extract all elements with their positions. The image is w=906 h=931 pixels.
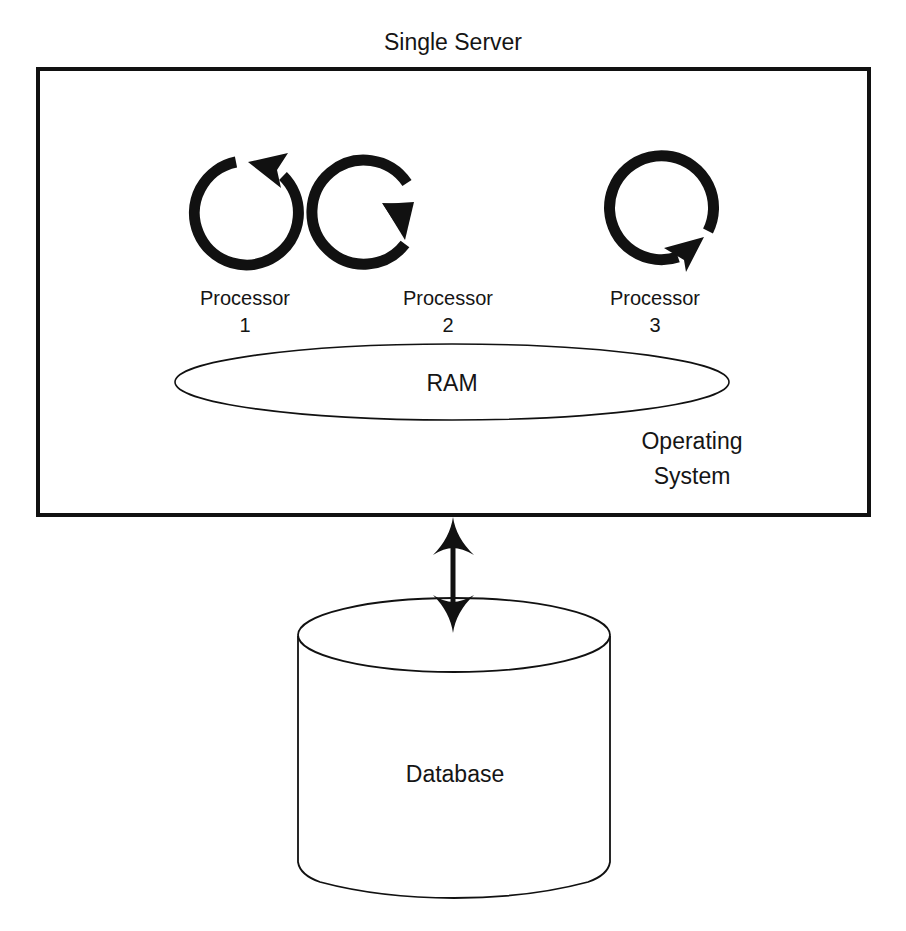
processor-1-number: 1	[239, 314, 250, 336]
cylinder-database-icon	[298, 598, 610, 898]
processor-2-label: Processor	[403, 287, 493, 309]
ram-label: RAM	[426, 370, 477, 396]
operating-system-label-line1: Operating	[641, 428, 742, 454]
processor-3-number: 3	[649, 314, 660, 336]
server-architecture-diagram: Single Server Processor 1 Processor 2 Pr…	[0, 0, 906, 931]
double-arrow-icon	[433, 517, 474, 633]
cycle-arrow-icon	[312, 160, 414, 264]
operating-system-label-line2: System	[654, 463, 731, 489]
diagram-title: Single Server	[384, 29, 522, 55]
cycle-arrow-icon	[610, 156, 714, 272]
processor-2-number: 2	[442, 314, 453, 336]
cycle-arrow-icon	[194, 153, 298, 265]
processor-1-label: Processor	[200, 287, 290, 309]
processor-3-label: Processor	[610, 287, 700, 309]
database-label: Database	[406, 761, 504, 787]
